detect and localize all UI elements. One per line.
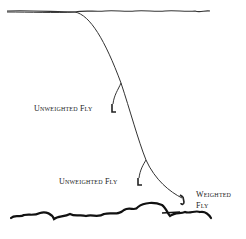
fly-rig-diagram [0, 0, 246, 239]
fly-2-icon [138, 178, 142, 185]
water-surface [7, 11, 210, 12]
unweighted-fly-label-1: Unweighted Fly [34, 103, 92, 114]
weighted-fly-label-line2: Fly [196, 200, 208, 211]
dropper-2 [139, 160, 146, 178]
weighted-fly-label-line1: Weighted [196, 189, 231, 200]
unweighted-fly-label-2: Unweighted Fly [59, 176, 117, 187]
stream-bottom [11, 203, 211, 219]
dropper-1 [113, 83, 121, 104]
fly-1-icon [112, 104, 116, 112]
fly-3-icon [180, 195, 184, 204]
